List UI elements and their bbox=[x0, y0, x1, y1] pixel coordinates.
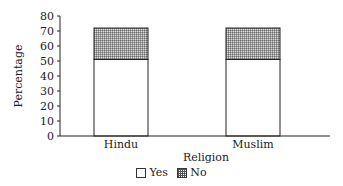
y-tick-label: 60 bbox=[40, 40, 54, 53]
legend-label-no: No bbox=[190, 166, 206, 179]
bars bbox=[94, 28, 280, 136]
y-tick-label: 20 bbox=[40, 100, 54, 113]
y-tick-label: 10 bbox=[40, 115, 54, 128]
no-swatch-icon bbox=[177, 168, 187, 178]
bar-hindu-no bbox=[94, 28, 148, 60]
x-axis: HinduMuslim bbox=[60, 136, 330, 151]
x-tick-label: Muslim bbox=[232, 138, 274, 151]
legend-item-no: No bbox=[177, 166, 206, 179]
x-tick-label: Hindu bbox=[104, 138, 138, 151]
bar-hindu-yes bbox=[94, 60, 148, 137]
bar-muslim-no bbox=[226, 28, 280, 60]
y-axis-label: Percentage bbox=[12, 45, 25, 108]
y-tick-label: 80 bbox=[40, 10, 54, 23]
legend-label-yes: Yes bbox=[149, 166, 167, 179]
stacked-bar-chart: 01020304050607080 HinduMuslim Percentage… bbox=[0, 0, 343, 165]
yes-swatch-icon bbox=[136, 168, 146, 178]
legend-item-yes: Yes bbox=[136, 166, 167, 179]
x-axis-label: Religion bbox=[183, 151, 229, 164]
y-tick-label: 40 bbox=[40, 70, 54, 83]
y-tick-label: 50 bbox=[40, 55, 54, 68]
bar-muslim-yes bbox=[226, 60, 280, 137]
y-tick-label: 0 bbox=[47, 130, 54, 143]
legend: Yes No bbox=[0, 166, 343, 181]
y-axis: 01020304050607080 bbox=[40, 10, 60, 143]
y-tick-label: 70 bbox=[40, 25, 54, 38]
y-tick-label: 30 bbox=[40, 85, 54, 98]
